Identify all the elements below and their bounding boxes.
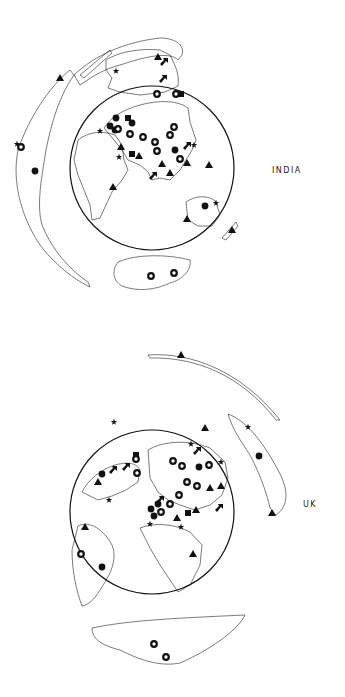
- ring-marker: [173, 91, 179, 97]
- triangle-marker: [94, 478, 102, 485]
- arrow-marker: [193, 447, 201, 455]
- square-marker: [125, 115, 131, 121]
- ring-marker: [152, 139, 158, 145]
- star-marker: [178, 524, 184, 530]
- circle-marker: [148, 506, 155, 513]
- ring-marker: [170, 458, 176, 464]
- circle-marker: [256, 453, 263, 460]
- circle-marker: [129, 120, 136, 127]
- ring-marker: [148, 273, 154, 279]
- triangle-marker: [217, 482, 225, 489]
- circle-marker: [151, 513, 158, 520]
- marker-layer: [0, 0, 345, 697]
- triangle-marker: [268, 509, 276, 516]
- star-marker: [188, 441, 194, 447]
- triangle-marker: [135, 152, 143, 159]
- square-marker: [178, 91, 184, 97]
- ring-marker: [154, 148, 160, 154]
- triangle-marker: [177, 351, 185, 358]
- triangle-marker: [81, 523, 89, 530]
- circle-marker: [196, 464, 203, 471]
- triangle-marker: [192, 506, 200, 513]
- triangle-marker: [56, 74, 64, 81]
- ring-marker: [177, 156, 183, 162]
- triangle-marker: [173, 514, 181, 521]
- ring-marker: [154, 91, 160, 97]
- star-marker: [113, 68, 119, 74]
- triangle-marker: [109, 183, 117, 190]
- triangle-marker: [117, 143, 125, 150]
- arrow-marker: [109, 466, 117, 474]
- circle-marker: [32, 168, 39, 175]
- circle-marker: [99, 564, 106, 571]
- triangle-marker: [166, 169, 174, 176]
- ring-marker: [151, 641, 157, 647]
- ring-marker: [127, 131, 133, 137]
- ring-marker: [179, 463, 185, 469]
- star-marker: [213, 200, 219, 206]
- triangle-marker: [206, 484, 214, 491]
- ring-marker: [176, 492, 182, 498]
- arrow-marker: [149, 172, 157, 180]
- circle-marker: [172, 147, 179, 154]
- star-marker: [191, 142, 197, 148]
- circle-marker: [202, 203, 209, 210]
- triangle-marker: [205, 161, 213, 168]
- ring-marker: [163, 654, 169, 660]
- ring-marker: [167, 501, 173, 507]
- triangle-marker: [183, 159, 191, 166]
- square-marker: [129, 151, 135, 157]
- ring-marker: [78, 551, 84, 557]
- star-marker: [147, 521, 153, 527]
- arrow-marker: [215, 504, 223, 512]
- ring-marker: [167, 132, 173, 138]
- star-marker: [245, 424, 251, 430]
- star-marker: [111, 419, 117, 425]
- circle-marker: [99, 471, 106, 478]
- triangle-marker: [201, 424, 209, 431]
- star-marker: [116, 154, 122, 160]
- ring-marker: [184, 479, 190, 485]
- ring-marker: [115, 126, 121, 132]
- triangle-marker: [154, 53, 162, 60]
- star-marker: [218, 459, 224, 465]
- ring-marker: [171, 124, 177, 130]
- ring-marker: [133, 456, 139, 462]
- arrow-marker: [183, 142, 191, 150]
- square-marker: [185, 510, 191, 516]
- star-marker: [97, 128, 103, 134]
- triangle-marker: [189, 550, 197, 557]
- star-marker: [106, 497, 112, 503]
- ring-marker: [140, 134, 146, 140]
- ring-marker: [171, 270, 177, 276]
- ring-marker: [134, 470, 140, 476]
- arrow-marker: [159, 75, 167, 83]
- ring-marker: [18, 144, 24, 150]
- triangle-marker: [183, 215, 191, 222]
- ring-marker: [206, 462, 212, 468]
- triangle-marker: [158, 160, 166, 167]
- arrow-marker: [122, 463, 130, 471]
- circle-marker: [113, 115, 120, 122]
- ring-marker: [158, 509, 164, 515]
- ring-marker: [194, 483, 200, 489]
- triangle-marker: [228, 226, 236, 233]
- circle-marker: [155, 501, 162, 508]
